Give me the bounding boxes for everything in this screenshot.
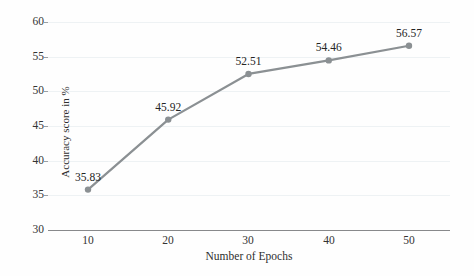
data-point-label: 54.46 (302, 41, 356, 53)
series-line (88, 46, 409, 190)
data-point-label: 45.92 (141, 101, 195, 113)
data-point (326, 57, 332, 63)
data-point-label: 56.57 (382, 27, 436, 39)
data-point (165, 116, 171, 122)
data-point (245, 71, 251, 77)
data-point (85, 186, 91, 192)
data-point (406, 43, 412, 49)
data-series (0, 0, 474, 276)
line-chart: Accuracy score in % 60 55 50 45 40 35 30… (0, 0, 474, 276)
data-point-label: 52.51 (222, 55, 276, 67)
data-point-label: 35.83 (61, 171, 115, 183)
